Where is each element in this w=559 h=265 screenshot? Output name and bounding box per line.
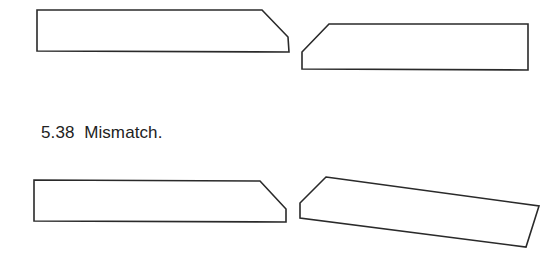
bottom-right-board-skewed: [300, 177, 539, 247]
mismatched-pair-row: [34, 177, 539, 247]
figure-caption: 5.38 Mismatch.: [41, 123, 163, 143]
matched-pair-row: [37, 10, 528, 70]
bottom-left-board: [34, 180, 286, 222]
top-left-board: [37, 10, 289, 52]
top-right-board: [302, 24, 528, 70]
